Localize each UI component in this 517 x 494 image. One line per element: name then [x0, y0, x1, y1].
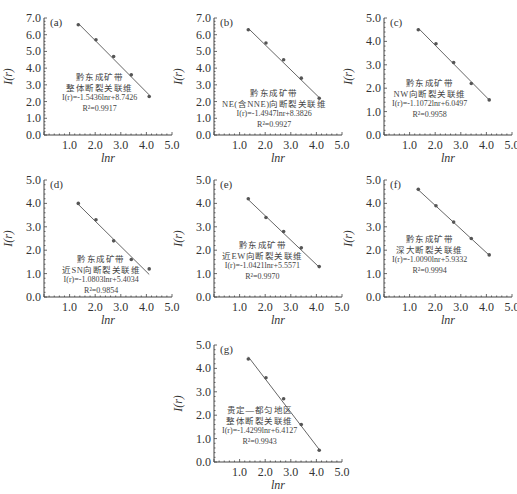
plot-area: 0.01.02.03.04.05.06.07.01.02.03.04.05.0l…	[170, 0, 342, 162]
y-axis-title: I(r)	[1, 230, 15, 248]
fit-annotation: 黔东成矿带深大断裂关联维I(r)=-1.0090lnr+5.9332R²=0.9…	[392, 234, 467, 276]
data-point	[317, 449, 321, 453]
region-label: 黔东成矿带	[62, 254, 140, 265]
x-tick-label: 1.0	[232, 465, 247, 479]
y-tick-label: 0.0	[26, 128, 41, 142]
y-tick-label: 5.0	[196, 173, 211, 187]
r-squared: R²=0.9994	[392, 266, 467, 277]
data-point	[417, 28, 421, 32]
y-tick-label: 4.0	[196, 196, 211, 210]
panel-f: 0.01.02.03.04.05.01.02.03.04.05.0lnrI(r)…	[340, 162, 512, 324]
x-tick-label: 1.0	[232, 300, 247, 314]
y-tick-label: 1.0	[26, 111, 41, 125]
region-label: 黔东成矿带	[392, 234, 467, 245]
plot-area: 0.01.02.03.04.05.01.02.03.04.05.0lnrI(r)…	[0, 162, 172, 324]
data-point	[317, 265, 321, 269]
y-tick-label: 3.0	[26, 220, 41, 234]
data-point	[487, 253, 491, 257]
x-tick-label: 4.0	[309, 465, 324, 479]
data-point	[282, 58, 286, 62]
y-tick-label: 5.0	[26, 173, 41, 187]
fault-set-label: 深大断裂关联维	[392, 245, 467, 256]
y-tick-label: 0.0	[26, 290, 41, 304]
panel-label: (f)	[390, 178, 401, 191]
regression-equation: I(r)=-1.4947lnr+8.3826	[222, 109, 326, 120]
panel-g: 0.01.02.03.04.05.01.02.03.04.05.0lnrI(r)…	[170, 327, 342, 489]
y-tick-label: 2.0	[366, 243, 381, 257]
region-label: 黔东成矿带	[62, 72, 137, 83]
fault-set-label: 近EW向断裂关联维	[222, 251, 303, 262]
y-tick-label: 0.0	[196, 128, 211, 142]
y-axis-title: I(r)	[171, 230, 185, 248]
regression-equation: I(r)=-1.5436lnr+8.7426	[62, 93, 137, 104]
data-point	[247, 357, 251, 361]
y-tick-label: 4.0	[366, 196, 381, 210]
y-tick-label: 4.0	[26, 61, 41, 75]
y-tick-label: 1.0	[196, 111, 211, 125]
x-tick-label: 4.0	[139, 300, 154, 314]
fit-annotation: 贵定—都匀地区整体断裂关联维I(r)=-1.4299lnr+6.4127R²=0…	[222, 405, 297, 447]
fault-set-label: NE(含NNE)向断裂关联维	[222, 99, 326, 110]
x-tick-label: 1.0	[402, 300, 417, 314]
regression-equation: I(r)=-1.0421lnr+5.5571	[222, 261, 303, 272]
region-label: 贵定—都匀地区	[222, 405, 297, 416]
panel-label: (e)	[220, 178, 233, 191]
x-axis-title: lnr	[101, 313, 115, 327]
panel-e: 0.01.02.03.04.05.01.02.03.04.05.0lnrI(r)…	[170, 162, 342, 324]
fit-annotation: 黔东成矿带NW向断裂关联维I(r)=-1.1072lnr+6.0497R²=0.…	[392, 78, 467, 120]
y-tick-label: 1.0	[196, 267, 211, 281]
panel-label: (d)	[50, 178, 63, 191]
data-point	[147, 267, 151, 271]
y-tick-label: 1.0	[366, 267, 381, 281]
fit-annotation: 黔东成矿带近SN向断裂关联维I(r)=-1.0803lnr+5.4034R²=0…	[62, 254, 140, 296]
y-tick-label: 5.0	[366, 173, 381, 187]
x-tick-label: 3.0	[113, 300, 128, 314]
data-point	[487, 98, 491, 102]
x-tick-label: 2.0	[88, 138, 103, 152]
y-tick-label: 5.0	[26, 44, 41, 58]
y-tick-label: 0.0	[366, 128, 381, 142]
y-tick-label: 6.0	[26, 28, 41, 42]
data-point	[282, 397, 286, 401]
y-tick-label: 3.0	[26, 78, 41, 92]
r-squared: R²=0.9970	[222, 272, 303, 283]
data-point	[452, 61, 456, 65]
y-tick-label: 0.0	[196, 290, 211, 304]
data-point	[94, 218, 98, 222]
region-label: 黔东成矿带	[222, 240, 303, 251]
y-tick-label: 3.0	[366, 58, 381, 72]
data-point	[264, 376, 268, 380]
x-tick-label: 5.0	[505, 300, 517, 314]
x-tick-label: 1.0	[402, 138, 417, 152]
y-axis-title: I(r)	[1, 68, 15, 86]
y-tick-label: 5.0	[366, 11, 381, 25]
y-tick-label: 3.0	[366, 220, 381, 234]
x-tick-label: 5.0	[505, 138, 517, 152]
region-label: 黔东成矿带	[392, 78, 467, 89]
y-tick-label: 5.0	[196, 338, 211, 352]
data-point	[264, 216, 268, 220]
r-squared: R²=0.9927	[222, 120, 326, 131]
x-tick-label: 3.0	[283, 300, 298, 314]
y-tick-label: 3.0	[196, 220, 211, 234]
x-tick-label: 5.0	[335, 465, 350, 479]
panel-label: (c)	[390, 16, 403, 29]
data-point	[469, 82, 473, 86]
panel-d: 0.01.02.03.04.05.01.02.03.04.05.0lnrI(r)…	[0, 162, 172, 324]
regression-equation: I(r)=-1.0803lnr+5.4034	[62, 275, 140, 286]
data-point	[77, 23, 81, 27]
y-axis-title: I(r)	[171, 395, 185, 413]
panel-label: (b)	[220, 16, 233, 29]
y-tick-label: 2.0	[26, 95, 41, 109]
region-label: 黔东成矿带	[222, 88, 326, 99]
regression-equation: I(r)=-1.4299lnr+6.4127	[222, 426, 297, 437]
y-tick-label: 7.0	[196, 11, 211, 25]
y-tick-label: 1.0	[26, 267, 41, 281]
x-tick-label: 1.0	[232, 138, 247, 152]
regression-equation: I(r)=-1.0090lnr+5.9332	[392, 255, 467, 266]
y-tick-label: 0.0	[196, 455, 211, 469]
y-tick-label: 1.0	[196, 432, 211, 446]
x-tick-label: 3.0	[453, 300, 468, 314]
y-tick-label: 3.0	[196, 385, 211, 399]
data-point	[299, 423, 303, 427]
